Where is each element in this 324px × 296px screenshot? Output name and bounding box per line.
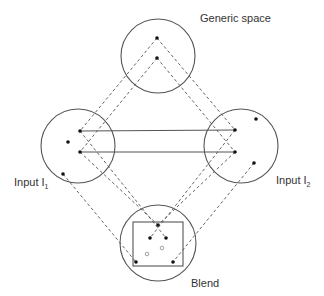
dashed-projection-line	[158, 152, 235, 225]
element-dot	[155, 56, 159, 60]
emergent-element-dot	[145, 252, 149, 256]
dashed-projection-line	[80, 58, 157, 152]
element-dot	[66, 140, 70, 144]
conceptual-blending-diagram	[0, 0, 324, 296]
dashed-projection-line	[157, 38, 235, 130]
input2-circle	[204, 109, 278, 183]
input2-label: Input I2	[276, 174, 310, 188]
cross-space-mapping-line	[80, 130, 235, 131]
blend-label: Blend	[191, 277, 219, 289]
element-dot	[78, 129, 82, 133]
element-dot	[78, 150, 82, 154]
element-dot	[155, 36, 159, 40]
element-dot	[252, 161, 256, 165]
element-dot	[233, 150, 237, 154]
blend-frame	[133, 222, 183, 266]
input1-label: Input I1	[14, 176, 48, 190]
element-dot	[171, 260, 175, 264]
input1-circle	[41, 109, 115, 183]
generic-space-label: Generic space	[200, 12, 271, 24]
dashed-projection-line	[80, 152, 158, 225]
element-dot	[156, 223, 160, 227]
element-dot	[254, 117, 258, 121]
emergent-element-dot	[160, 246, 164, 250]
dashed-projection-line	[173, 163, 254, 262]
element-dot	[148, 236, 152, 240]
element-dot	[233, 128, 237, 132]
blend-circle	[120, 205, 196, 281]
dashed-projection-line	[80, 38, 157, 131]
dashed-projection-line	[157, 58, 235, 152]
element-dot	[61, 172, 65, 176]
element-dot	[134, 260, 138, 264]
element-dot	[164, 236, 168, 240]
generic-space-circle	[121, 19, 195, 93]
